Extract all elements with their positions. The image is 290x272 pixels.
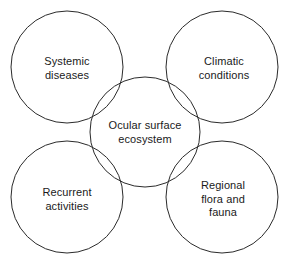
circle-regional-flora-and-fauna [166, 141, 278, 253]
circle-ocular-surface-ecosystem [90, 77, 200, 187]
circle-recurrent-activities [11, 141, 123, 253]
circle-systemic-diseases [11, 11, 123, 123]
venn-circles-canvas [0, 0, 290, 272]
circle-climatic-conditions [166, 11, 278, 123]
venn-diagram: Systemic diseases Climatic conditions Re… [0, 0, 290, 272]
